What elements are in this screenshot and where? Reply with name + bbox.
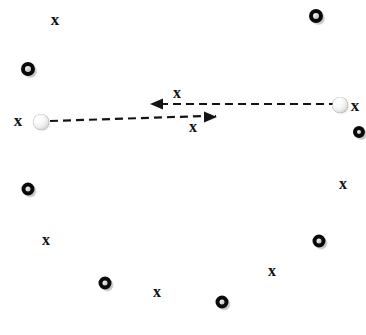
span-arrowheads [150, 99, 217, 123]
sphere-right-endpoint [333, 98, 348, 113]
x-marker-bottom-center: x [153, 284, 161, 300]
ring-marker [313, 235, 326, 248]
x-marker-span-right-end: x [351, 97, 360, 114]
ring-marker [216, 296, 229, 309]
x-marker-mid-right: x [339, 176, 347, 192]
ring-marker [99, 277, 112, 290]
span-annotation-layer [0, 0, 366, 335]
ring-marker [22, 183, 35, 196]
x-marker-mid-left: x [42, 232, 50, 248]
arrowhead-left-icon [150, 99, 163, 110]
dashed-line-lower [50, 116, 205, 121]
ring-marker [21, 62, 35, 76]
x-marker-span-above: x [173, 85, 181, 101]
arrowhead-right-icon [204, 112, 217, 123]
x-marker-span-left-end: x [14, 112, 23, 129]
x-marker-span-below: x [189, 119, 197, 135]
sphere-left-endpoint [34, 115, 49, 130]
x-marker-bottom-right: x [268, 263, 276, 279]
diagram-canvas: x x x x x x x x x [0, 0, 366, 335]
x-marker-top-left: x [51, 11, 60, 28]
ring-marker [353, 126, 365, 138]
ring-marker [309, 9, 323, 23]
